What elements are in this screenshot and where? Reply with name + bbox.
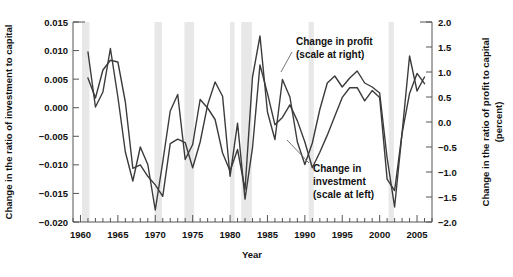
y-ticklabel-left: 0.010 — [44, 45, 68, 56]
investment-annotation-line3: (scale at left) — [313, 189, 374, 200]
y-ticklabel-right: −0.5 — [438, 142, 457, 153]
x-ticklabel: 1995 — [332, 229, 354, 240]
y-ticklabel-left: −0.005 — [39, 131, 69, 142]
y-axis-right-title-line1: Change in the ratio of profit to capital — [480, 38, 491, 207]
x-ticklabel: 2005 — [406, 229, 428, 240]
x-ticklabel: 1975 — [182, 229, 204, 240]
y-axis-right-title-line2: (percent) — [493, 102, 504, 143]
chart-figure: 0.0150.0100.0050.000−0.005−0.010−0.015−0… — [0, 0, 513, 277]
y-ticklabel-left: 0.015 — [44, 17, 68, 28]
y-ticklabel-left: −0.010 — [39, 159, 68, 170]
y-axis-left-title: Change in the ratio of investment to cap… — [3, 25, 14, 220]
recession-band — [230, 22, 234, 222]
y-ticklabel-left: −0.015 — [39, 188, 69, 199]
y-ticklabel-right: 1.0 — [438, 67, 451, 78]
investment-annotation-line2: investment — [313, 176, 366, 187]
y-ticklabel-right: 1.5 — [438, 42, 452, 53]
y-ticklabel-right: 0.0 — [438, 117, 451, 128]
profit-annotation-line2: (scale at right) — [296, 49, 364, 60]
investment-annotation-line1: Change in — [313, 163, 361, 174]
y-ticklabel-right: −1.0 — [438, 167, 457, 178]
x-ticklabel: 2000 — [369, 229, 390, 240]
recession-band — [389, 22, 394, 222]
recession-band — [184, 22, 194, 222]
x-ticklabel: 1970 — [145, 229, 166, 240]
x-ticklabel: 1965 — [107, 229, 129, 240]
y-ticklabel-left: 0.000 — [44, 102, 68, 113]
y-ticklabel-right: 0.5 — [438, 92, 452, 103]
y-ticklabel-left: −0.020 — [39, 217, 68, 228]
x-ticklabel: 1985 — [257, 229, 279, 240]
y-ticklabel-right: 2.0 — [438, 17, 451, 28]
y-ticklabel-right: −1.5 — [438, 192, 457, 203]
investment-profit-line-chart: 0.0150.0100.0050.000−0.005−0.010−0.015−0… — [0, 0, 513, 277]
x-axis-title: Year — [242, 249, 262, 260]
y-ticklabel-right: −2.0 — [438, 217, 457, 228]
x-ticklabel: 1990 — [294, 229, 315, 240]
x-ticklabel: 1980 — [219, 229, 240, 240]
profit-annotation-line1: Change in profit — [296, 36, 373, 47]
x-ticklabel: 1960 — [70, 229, 91, 240]
y-ticklabel-left: 0.005 — [44, 74, 68, 85]
